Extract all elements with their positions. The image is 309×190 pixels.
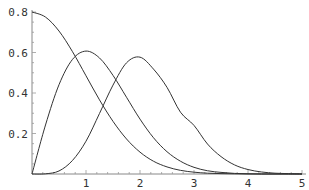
axes — [32, 10, 306, 174]
chart-canvas: 12345 0.20.40.60.8 — [0, 0, 309, 190]
y-tick-label: 0.4 — [8, 87, 28, 100]
y-tick-label: 0.8 — [8, 6, 28, 19]
x-tick-label: 5 — [299, 177, 306, 190]
curve-2 — [32, 51, 302, 174]
x-tick-label: 2 — [137, 177, 144, 190]
y-tick-label: 0.6 — [8, 47, 28, 60]
x-tick-label: 3 — [191, 177, 198, 190]
line-chart: 12345 0.20.40.60.8 — [0, 0, 309, 190]
y-tick-label: 0.2 — [8, 128, 28, 141]
y-tick-labels: 0.20.40.60.8 — [8, 6, 28, 141]
curves — [32, 12, 302, 174]
curve-3 — [32, 57, 302, 174]
x-tick-label: 4 — [245, 177, 252, 190]
curve-1 — [32, 12, 302, 174]
x-tick-label: 1 — [83, 177, 90, 190]
x-tick-labels: 12345 — [83, 177, 306, 190]
